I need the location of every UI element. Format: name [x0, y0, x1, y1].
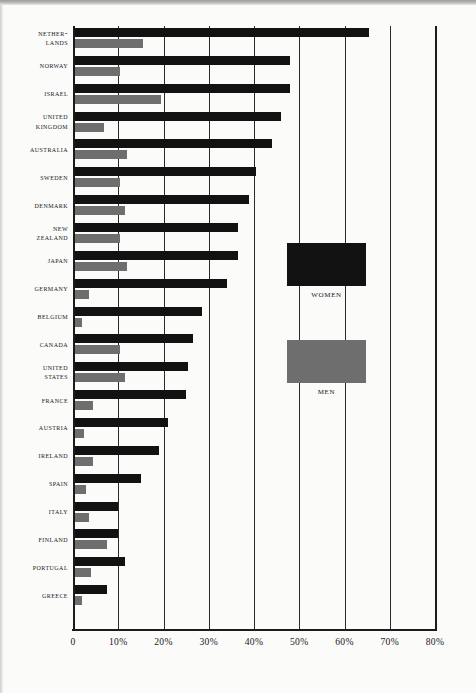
- category-label: Denmark: [0, 201, 68, 210]
- bar-group: [75, 502, 435, 524]
- category-label-line: Belgium: [0, 312, 68, 321]
- category-label: Spain: [0, 479, 68, 488]
- bar-women: [75, 557, 125, 566]
- category-label-line: States: [0, 372, 68, 381]
- bar-men: [75, 568, 91, 577]
- legend-swatch-men: [287, 340, 366, 383]
- category-label: Nether-lands: [0, 29, 68, 47]
- category-label: Portugal: [0, 563, 68, 572]
- legend-item-women: Women: [287, 243, 397, 299]
- x-tick-label-70: 70%: [381, 636, 400, 647]
- category-label: UnitedKingdom: [0, 112, 68, 130]
- bar-group: [75, 112, 435, 134]
- x-axis-line: [72, 629, 436, 631]
- bar-group: [75, 418, 435, 440]
- bar-women: [75, 195, 249, 204]
- bar-women: [75, 139, 272, 148]
- bar-men: [75, 485, 86, 494]
- bar-women: [75, 529, 118, 538]
- category-label: Finland: [0, 535, 68, 544]
- scan-top-edge: [0, 0, 476, 5]
- category-label-line: Sweden: [0, 173, 68, 182]
- x-tick-label-80: 80%: [426, 636, 445, 647]
- bar-men: [75, 429, 84, 438]
- bar-group: [75, 84, 435, 106]
- category-label-line: Austria: [0, 423, 68, 432]
- bar-men: [75, 150, 127, 159]
- bar-women: [75, 362, 188, 371]
- category-label-line: Finland: [0, 535, 68, 544]
- category-label-line: Canada: [0, 340, 68, 349]
- bar-men: [75, 39, 143, 48]
- category-label: Greece: [0, 591, 68, 600]
- category-label-line: Greece: [0, 591, 68, 600]
- category-label-line: Australia: [0, 145, 68, 154]
- bar-group: [75, 28, 435, 50]
- bar-men: [75, 178, 120, 187]
- category-label-line: Italy: [0, 507, 68, 516]
- bar-men: [75, 95, 161, 104]
- bar-men: [75, 318, 82, 327]
- bar-group: [75, 557, 435, 579]
- category-label: Germany: [0, 284, 68, 293]
- bar-men: [75, 123, 104, 132]
- bar-men: [75, 67, 120, 76]
- bar-women: [75, 585, 107, 594]
- category-label-line: Spain: [0, 479, 68, 488]
- bar-women: [75, 56, 290, 65]
- chart-page: Nether-landsNorwayIsraelUnitedKingdomAus…: [0, 0, 476, 693]
- category-label-line: France: [0, 396, 68, 405]
- category-label: France: [0, 396, 68, 405]
- bar-women: [75, 334, 193, 343]
- category-label: UnitedStates: [0, 363, 68, 381]
- category-label: Sweden: [0, 173, 68, 182]
- x-tick-label-40: 40%: [245, 636, 264, 647]
- bar-group: [75, 167, 435, 189]
- category-label-line: Norway: [0, 61, 68, 70]
- bar-men: [75, 457, 93, 466]
- bar-men: [75, 373, 125, 382]
- bar-men: [75, 206, 125, 215]
- bar-men: [75, 290, 89, 299]
- bar-group: [75, 195, 435, 217]
- bar-women: [75, 502, 118, 511]
- x-tick-label-50: 50%: [290, 636, 309, 647]
- bar-women: [75, 223, 238, 232]
- bar-men: [75, 234, 120, 243]
- category-label-line: Ireland: [0, 451, 68, 460]
- bar-women: [75, 446, 159, 455]
- bar-group: [75, 446, 435, 468]
- legend-swatch-women: [287, 243, 366, 286]
- legend-label-women: Women: [287, 286, 366, 299]
- category-label: Japan: [0, 256, 68, 265]
- category-label: Ireland: [0, 451, 68, 460]
- legend: Women Men: [287, 243, 397, 396]
- category-label-line: Japan: [0, 256, 68, 265]
- category-label: Italy: [0, 507, 68, 516]
- category-label-line: Portugal: [0, 563, 68, 572]
- bar-men: [75, 540, 107, 549]
- category-axis-labels: Nether-landsNorwayIsraelUnitedKingdomAus…: [0, 26, 68, 631]
- value-axis-labels: 010%20%30%40%50%60%70%80%: [73, 636, 453, 656]
- bar-women: [75, 418, 168, 427]
- category-label: Israel: [0, 89, 68, 98]
- gridline-80: [435, 26, 437, 631]
- bar-women: [75, 279, 227, 288]
- x-tick-label-10: 10%: [109, 636, 128, 647]
- x-tick-label-20: 20%: [154, 636, 173, 647]
- bar-women: [75, 390, 186, 399]
- bar-group: [75, 139, 435, 161]
- bar-men: [75, 345, 120, 354]
- bar-group: [75, 56, 435, 78]
- legend-label-men: Men: [287, 383, 366, 396]
- category-label: NewZealand: [0, 224, 68, 242]
- bar-men: [75, 262, 127, 271]
- category-label-line: Denmark: [0, 201, 68, 210]
- bar-men: [75, 401, 93, 410]
- category-label-line: Germany: [0, 284, 68, 293]
- bar-women: [75, 251, 238, 260]
- bar-group: [75, 529, 435, 551]
- category-label-line: Zealand: [0, 233, 68, 242]
- x-tick-label-30: 30%: [200, 636, 219, 647]
- bar-group: [75, 474, 435, 496]
